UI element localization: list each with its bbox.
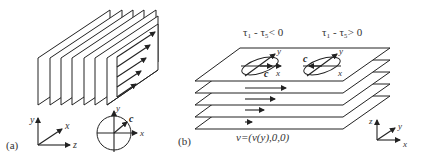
ellipse-left-y-label: y [276,46,281,56]
panel-a-plates [38,10,158,105]
circle-c-label: c [129,113,134,124]
ellipse-right-x-label: x [337,68,342,78]
panel-a: y x z (a) y x c [6,10,158,152]
b-y-axis-arrow [377,128,395,140]
x-axis-arrow [38,129,62,145]
ellipse-right-c-label: c [303,53,308,64]
x-axis-label: x [64,120,70,131]
condition-right: τ₁ - τ₅> 0 [322,26,363,38]
b-z-axis-label: z [368,116,373,126]
ellipse-left-c-label: c [264,68,269,79]
y-axis-label: y [29,114,35,125]
z-axis-label: z [72,139,77,150]
b-x-axis-label: x [402,139,407,149]
circle-x-label: x [139,128,144,138]
velocity-formula: v=(v(y),0,0) [236,131,290,144]
ellipse-right-y-label: y [338,46,343,56]
circle-y-label: y [115,103,120,113]
panel-a-director-circle: y x c [97,103,144,152]
condition-left: τ₁ - τ₅< 0 [243,26,284,38]
director-vector-c [114,122,127,133]
panel-b-plates [195,48,390,129]
panel-b-axes: z y x [368,116,407,149]
liquid-crystal-shear-diagram: y x z (a) y x c [0,0,425,158]
panel-b: τ₁ - τ₅< 0 τ₁ - τ₅> 0 y x c y x c v=(v(y… [178,26,407,149]
b-y-axis-label: y [397,121,402,131]
ellipse-left-x-label: x [275,68,280,78]
panel-b-label: (b) [178,135,191,148]
panel-a-label: (a) [6,139,19,152]
panel-a-axes: y x z (a) [6,114,77,152]
